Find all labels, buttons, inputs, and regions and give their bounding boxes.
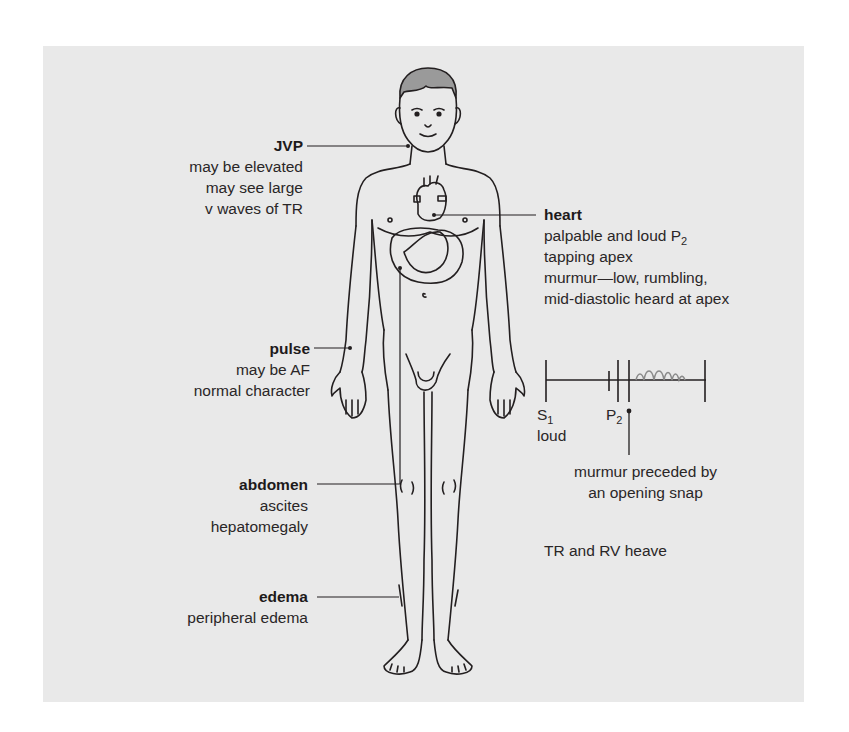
heart-line-2: tapping apex: [544, 246, 729, 267]
p2-label: P2: [606, 404, 622, 425]
abdomen-line-1: ascites: [211, 495, 308, 516]
s1-label: S1 loud: [537, 404, 566, 446]
jvp-title: JVP: [189, 135, 303, 156]
pulse-callout: pulse may be AF normal character: [194, 338, 310, 401]
jvp-line-3: v waves of TR: [189, 198, 303, 219]
murmur-waveform: [636, 371, 685, 380]
jvp-line-2: may see large: [189, 177, 303, 198]
edema-line-1: peripheral edema: [187, 607, 308, 628]
opening-snap-note: murmur preceded by an opening snap: [574, 461, 717, 503]
s1-note: loud: [537, 425, 566, 446]
pulse-line-2: normal character: [194, 380, 310, 401]
heart-line-1: palpable and loud P2: [544, 225, 729, 246]
abdomen-callout: abdomen ascites hepatomegaly: [211, 474, 308, 537]
abdomen-title: abdomen: [211, 474, 308, 495]
heart-line-4: mid-diastolic heard at apex: [544, 288, 729, 309]
hair: [400, 68, 456, 98]
pulse-line-1: may be AF: [194, 359, 310, 380]
heart-callout: heart palpable and loud P2 tapping apex …: [544, 204, 729, 309]
heart-sound-diagram: [546, 360, 706, 455]
heart-title: heart: [544, 204, 729, 225]
tr-rv-heave-note: TR and RV heave: [544, 540, 667, 561]
edema-callout: edema peripheral edema: [187, 586, 308, 628]
jvp-callout: JVP may be elevated may see large v wave…: [189, 135, 303, 219]
head: [399, 98, 456, 152]
heart-line-3: murmur—low, rumbling,: [544, 267, 729, 288]
pulse-title: pulse: [194, 338, 310, 359]
body-illustration: [0, 0, 849, 732]
abdomen-line-2: hepatomegaly: [211, 516, 308, 537]
jvp-line-1: may be elevated: [189, 156, 303, 177]
edema-title: edema: [187, 586, 308, 607]
